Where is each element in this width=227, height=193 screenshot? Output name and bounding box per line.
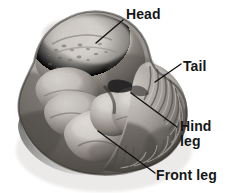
label-hind-leg-line1: Hind [180, 118, 212, 134]
label-hind-leg: Hindleg [180, 119, 212, 149]
label-hind-leg-line2: leg [180, 133, 201, 149]
embryo-figure: Head Tail Hindleg Front leg [0, 0, 227, 193]
embryo-photograph [0, 0, 227, 193]
label-tail: Tail [183, 59, 206, 74]
label-head: Head [126, 7, 161, 22]
label-front-leg: Front leg [156, 168, 217, 183]
